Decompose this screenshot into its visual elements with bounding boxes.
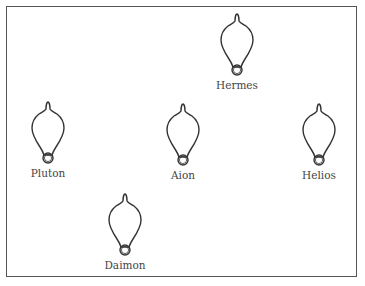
node-hermes: Hermes (207, 13, 267, 95)
node-label: Helios (289, 169, 349, 181)
light-bulb-icon (165, 103, 201, 167)
node-daimon: Daimon (95, 193, 155, 275)
node-pluton: Pluton (18, 101, 78, 183)
node-label: Pluton (18, 167, 78, 179)
node-helios: Helios (289, 103, 349, 185)
node-label: Hermes (207, 79, 267, 91)
light-bulb-icon (30, 101, 66, 165)
node-label: Daimon (95, 259, 155, 271)
node-aion: Aion (153, 103, 213, 185)
light-bulb-icon (219, 13, 255, 77)
node-label: Aion (153, 169, 213, 181)
light-bulb-icon (107, 193, 143, 257)
light-bulb-icon (301, 103, 337, 167)
